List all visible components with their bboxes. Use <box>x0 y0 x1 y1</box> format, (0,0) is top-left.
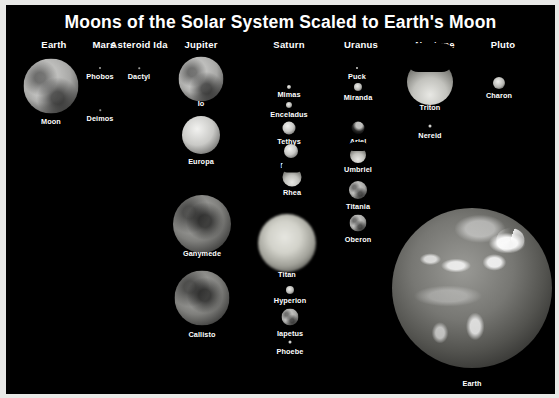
moon-body-ariel <box>352 122 365 135</box>
moon-label-iapetus: Iapetus <box>277 330 303 338</box>
moon-body-triton <box>407 59 453 105</box>
column-header-pluto: Pluto <box>472 40 534 50</box>
moon-label-hyperion: Hyperion <box>274 297 306 305</box>
earth-reference-body <box>392 208 552 368</box>
moon-body-tethys <box>283 122 296 135</box>
moon-body-puck <box>356 67 358 69</box>
moon-body-miranda <box>354 83 362 91</box>
moon-label-io: Io <box>198 100 205 108</box>
moon-body-phobos <box>99 67 101 69</box>
moon-label-triton: Triton <box>420 104 441 112</box>
moon-body-mimas <box>287 85 291 89</box>
moon-label-phobos: Phobos <box>86 73 113 81</box>
moon-label-puck: Puck <box>348 73 366 81</box>
moon-label-phoebe: Phoebe <box>277 348 304 356</box>
moon-body-enceladus <box>286 102 292 108</box>
moon-body-iapetus <box>282 309 299 326</box>
moon-label-umbriel: Umbriel <box>344 166 372 174</box>
column-header-asteroid-ida: Asteroid Ida <box>110 40 168 50</box>
moon-label-callisto: Callisto <box>188 331 215 339</box>
moon-body-hyperion <box>286 286 294 294</box>
moon-body-callisto <box>175 271 230 326</box>
earth-reference-label: Earth <box>462 380 481 388</box>
moon-body-titan <box>258 214 316 272</box>
moon-label-oberon: Oberon <box>345 236 372 244</box>
moon-label-dactyl: Dactyl <box>128 73 151 81</box>
earth-storm-swirl <box>497 228 524 252</box>
moon-label-titan: Titan <box>278 271 296 279</box>
page-title: Moons of the Solar System Scaled to Eart… <box>6 12 555 33</box>
moon-body-phoebe <box>289 341 292 344</box>
column-header-saturn: Saturn <box>256 40 322 50</box>
moon-body-io <box>179 57 224 102</box>
moon-label-enceladus: Enceladus <box>270 111 307 119</box>
moon-label-charon: Charon <box>486 92 512 100</box>
moon-body-dactyl <box>138 67 140 69</box>
poster: Moons of the Solar System Scaled to Eart… <box>0 0 559 398</box>
moon-body-oberon <box>350 215 367 232</box>
moon-label-nereid: Nereid <box>418 132 441 140</box>
moon-label-miranda: Miranda <box>344 94 373 102</box>
moon-label-deimos: Deimos <box>87 115 114 123</box>
moon-body-umbriel <box>350 147 366 163</box>
column-header-jupiter: Jupiter <box>166 40 236 50</box>
moon-body-nereid <box>429 125 432 128</box>
moon-label-moon: Moon <box>41 118 61 126</box>
column-header-uranus: Uranus <box>328 40 394 50</box>
moon-body-titania <box>349 181 367 199</box>
moon-body-ganymede <box>173 195 231 253</box>
moon-label-titania: Titania <box>346 203 370 211</box>
moon-body-rhea <box>283 168 302 187</box>
moon-label-rhea: Rhea <box>283 189 301 197</box>
moon-label-europa: Europa <box>188 158 214 166</box>
moon-label-mimas: Mimas <box>277 91 300 99</box>
moon-body-deimos <box>99 109 101 111</box>
poster-black-field: Moons of the Solar System Scaled to Eart… <box>6 5 555 394</box>
moon-body-charon <box>493 77 505 89</box>
moon-body-europa <box>182 116 220 154</box>
moon-label-ganymede: Ganymede <box>183 250 221 258</box>
moon-body-dione <box>284 144 298 158</box>
moon-body-moon <box>24 59 79 114</box>
